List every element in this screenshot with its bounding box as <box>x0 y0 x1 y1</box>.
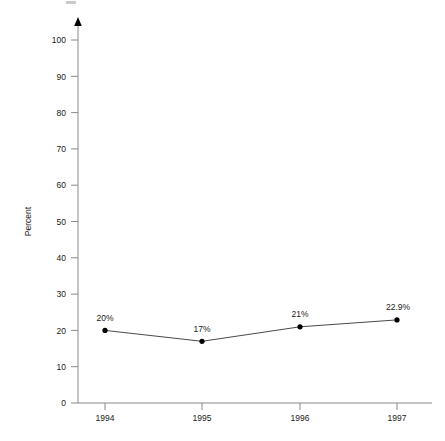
data-point-1996 <box>297 324 302 329</box>
data-label-1996: 21% <box>291 309 308 319</box>
x-tick-labels: 1994 1995 1996 1997 <box>96 413 407 423</box>
y-axis <box>74 17 82 403</box>
data-labels: 20% 17% 21% 22.9% <box>96 302 410 334</box>
line-chart: 0 10 20 30 40 50 60 70 80 90 100 Percent… <box>0 0 445 441</box>
x-tick-marks <box>105 403 397 410</box>
y-tick-label: 50 <box>57 217 67 227</box>
data-point-1995 <box>199 339 204 344</box>
series-line-percent <box>105 320 397 341</box>
y-axis-title: Percent <box>23 206 33 236</box>
y-tick-label: 100 <box>52 35 66 45</box>
series-markers <box>102 317 399 344</box>
data-point-1994 <box>102 328 107 333</box>
x-tick-label: 1994 <box>96 413 115 423</box>
x-tick-label: 1995 <box>193 413 212 423</box>
crop-artifact <box>66 1 76 4</box>
chart-canvas: 0 10 20 30 40 50 60 70 80 90 100 Percent… <box>0 0 445 441</box>
y-tick-marks <box>71 40 78 403</box>
data-label-1994: 20% <box>96 313 113 323</box>
y-tick-label: 30 <box>57 289 67 299</box>
y-tick-label: 10 <box>57 362 67 372</box>
data-label-1995: 17% <box>193 324 210 334</box>
y-tick-label: 70 <box>57 144 67 154</box>
y-tick-label: 0 <box>61 398 66 408</box>
data-point-1997 <box>394 317 399 322</box>
x-tick-label: 1996 <box>291 413 310 423</box>
y-tick-labels: 0 10 20 30 40 50 60 70 80 90 100 <box>52 35 66 408</box>
x-tick-label: 1997 <box>388 413 407 423</box>
y-tick-label: 20 <box>57 326 67 336</box>
y-tick-label: 40 <box>57 253 67 263</box>
y-tick-label: 80 <box>57 108 67 118</box>
data-label-1997: 22.9% <box>386 302 411 312</box>
y-tick-label: 90 <box>57 72 67 82</box>
y-axis-arrowhead <box>74 17 82 26</box>
y-tick-label: 60 <box>57 180 67 190</box>
